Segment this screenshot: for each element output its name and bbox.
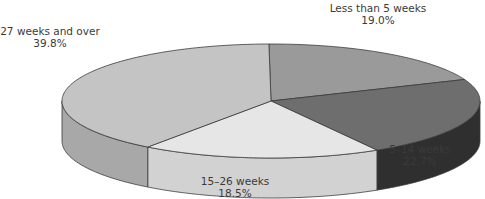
label-name: 5–14 weeks: [380, 143, 460, 155]
label-27-weeks-and-over: 27 weeks and over 39.8%: [0, 25, 100, 49]
label-name: 27 weeks and over: [0, 25, 100, 37]
label-less-than-5-weeks: Less than 5 weeks 19.0%: [318, 2, 438, 26]
label-5-14-weeks: 5–14 weeks 22.7%: [380, 143, 460, 167]
label-value: 39.8%: [0, 37, 100, 49]
label-value: 22.7%: [380, 155, 460, 167]
label-value: 19.0%: [318, 14, 438, 26]
label-15-26-weeks: 15–26 weeks 18.5%: [180, 175, 290, 199]
pie-tops: [62, 44, 480, 158]
label-name: 15–26 weeks: [180, 175, 290, 187]
label-value: 18.5%: [180, 187, 290, 199]
label-name: Less than 5 weeks: [318, 2, 438, 14]
